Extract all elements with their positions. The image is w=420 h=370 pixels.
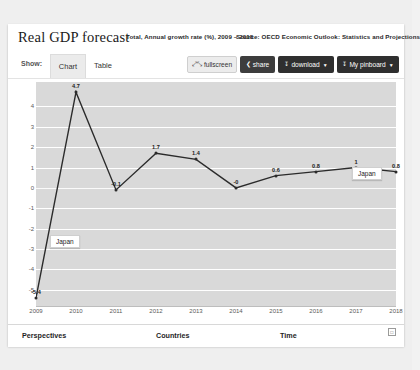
y-axis-tick: 4 — [18, 103, 34, 109]
download-label: download — [291, 61, 319, 68]
y-axis-tick: 0 — [18, 185, 34, 191]
y-axis-tick: 2 — [18, 144, 34, 150]
data-point-label: 0.6 — [272, 167, 280, 173]
pinboard-label: My pinboard — [349, 61, 385, 68]
expand-icon: ⤢⤡ — [192, 61, 202, 67]
x-axis-tick: 2015 — [269, 308, 282, 314]
data-point[interactable] — [395, 170, 398, 173]
data-point-label: 4.7 — [72, 83, 80, 89]
page-footnote — [4, 356, 324, 364]
y-axis-tick: 3 — [18, 124, 34, 130]
data-point[interactable] — [315, 170, 318, 173]
fullscreen-button[interactable]: ⤢⤡ fullscreen — [187, 56, 237, 73]
card-header: Real GDP forecast Total, Annual growth r… — [8, 24, 404, 52]
copy-icon[interactable]: ☐ — [388, 328, 396, 336]
x-axis-tick: 2011 — [110, 308, 123, 314]
data-point-label: 1.7 — [152, 144, 160, 150]
x-axis-tick: 2010 — [69, 308, 82, 314]
data-point[interactable] — [235, 186, 238, 189]
x-axis-tick: 2016 — [309, 308, 322, 314]
nav-time[interactable]: Time — [280, 331, 297, 340]
tab-chart[interactable]: Chart — [50, 54, 86, 78]
x-axis-tick: 2018 — [389, 308, 402, 314]
share-icon: ❮ — [246, 61, 251, 67]
data-point-label: 0.8 — [312, 163, 320, 169]
x-axis-line — [36, 306, 396, 307]
share-label: share — [253, 61, 270, 68]
bottom-nav: Perspectives Countries Time ☐ — [8, 324, 404, 347]
chart-area: 43210-1-2-3-4-52009201020112012201320142… — [18, 82, 396, 322]
data-point[interactable] — [35, 296, 38, 299]
x-axis-tick: 2013 — [189, 308, 202, 314]
x-axis-tick: 2012 — [149, 308, 162, 314]
data-point-label: 1.4 — [192, 150, 200, 156]
pinboard-button[interactable]: ↧ My pinboard ▼ — [337, 56, 399, 73]
chevron-down-icon: ▼ — [323, 62, 328, 68]
tooltip-left: Japan — [50, 235, 80, 248]
page-title: Real GDP forecast — [18, 29, 130, 46]
data-point-label: 1 — [354, 159, 357, 165]
share-button[interactable]: ❮ share — [240, 56, 275, 73]
data-point-label: -0.1 — [111, 181, 121, 187]
x-axis-tick: 2014 — [229, 308, 242, 314]
data-point-label: -0 — [234, 179, 239, 185]
download-icon: ↧ — [284, 61, 289, 67]
nav-countries[interactable]: Countries — [156, 331, 190, 340]
chart-subtitle: Total, Annual growth rate (%), 2009 – 20… — [126, 33, 253, 40]
show-label: Show: — [21, 60, 42, 67]
pin-icon: ↧ — [342, 61, 347, 67]
data-point-label: 0.8 — [392, 163, 400, 169]
tab-table[interactable]: Table — [86, 54, 120, 76]
y-axis-tick: -1 — [18, 205, 34, 211]
data-point[interactable] — [115, 188, 118, 191]
chart-card: Real GDP forecast Total, Annual growth r… — [8, 24, 404, 346]
data-point[interactable] — [155, 152, 158, 155]
download-button[interactable]: ↧ download ▼ — [278, 56, 334, 73]
y-axis-tick: 1 — [18, 165, 34, 171]
data-point[interactable] — [75, 91, 78, 94]
chart-source: Source: OECD Economic Outlook: Statistic… — [236, 33, 420, 40]
y-axis-tick: -3 — [18, 246, 34, 252]
x-axis-tick: 2017 — [349, 308, 362, 314]
data-point[interactable] — [275, 174, 278, 177]
fullscreen-label: fullscreen — [204, 61, 232, 68]
toolbar: Show: Chart Table ⤢⤡ fullscreen ❮ share … — [8, 52, 404, 79]
series-line-japan — [36, 82, 396, 306]
data-point-label: -5.4 — [31, 289, 41, 295]
chevron-down-icon: ▼ — [389, 62, 394, 68]
tooltip-right: Japan — [352, 167, 382, 180]
y-axis-tick: -4 — [18, 266, 34, 272]
y-axis-tick: -2 — [18, 226, 34, 232]
x-axis-tick: 2009 — [29, 308, 42, 314]
nav-perspectives[interactable]: Perspectives — [22, 331, 66, 340]
data-point[interactable] — [195, 158, 198, 161]
